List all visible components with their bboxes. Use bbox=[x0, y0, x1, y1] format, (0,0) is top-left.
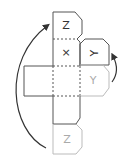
left-square bbox=[24, 66, 53, 96]
right-y-tab-label: Y bbox=[88, 49, 101, 57]
bottom-square bbox=[53, 96, 80, 124]
center-x-label: × bbox=[61, 46, 70, 59]
cube-net-diagram: Z × Y Y Z bbox=[0, 0, 128, 164]
right-fold-arrow bbox=[112, 56, 116, 82]
left-fold-arrow bbox=[16, 26, 47, 148]
bottom-z-ghost-label: Z bbox=[63, 133, 71, 146]
top-z-label: Z bbox=[62, 19, 70, 32]
right-y-ghost-label: Y bbox=[89, 74, 97, 87]
